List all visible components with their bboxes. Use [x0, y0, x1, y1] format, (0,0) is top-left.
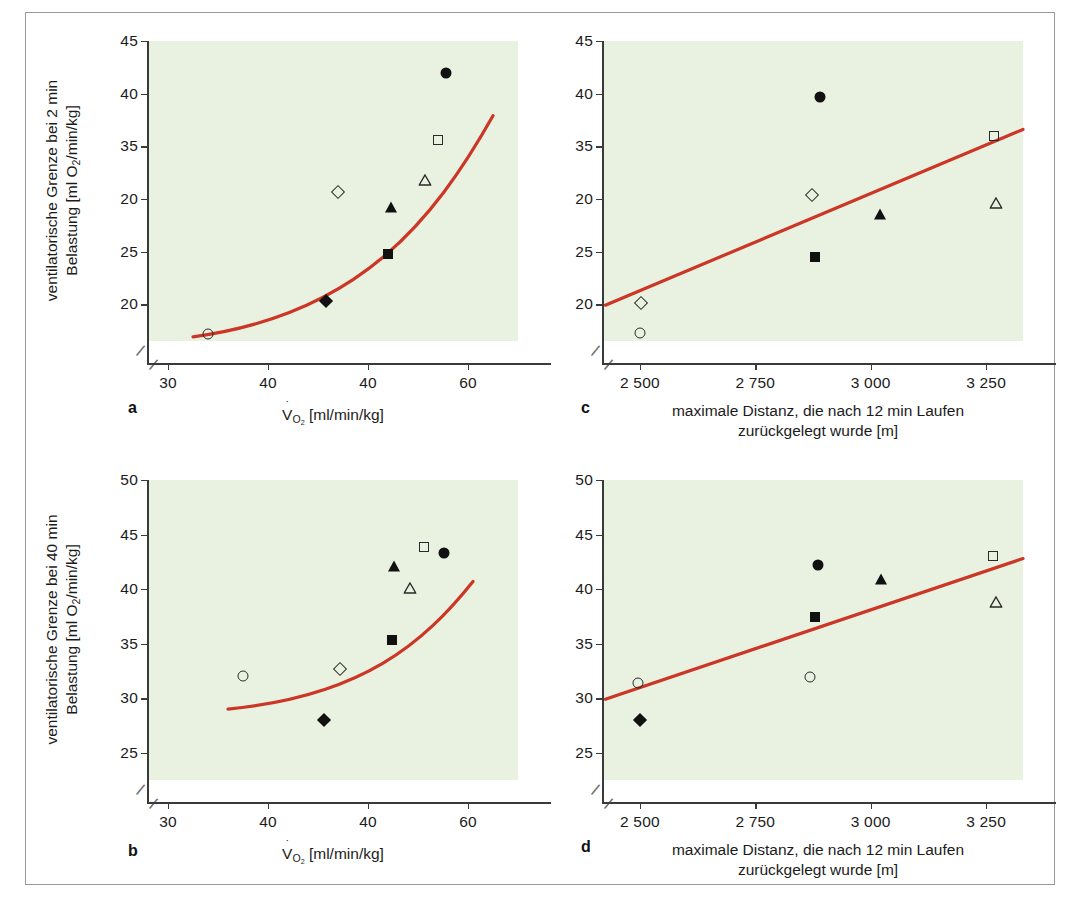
d-x-tick — [755, 803, 756, 809]
d-x-ticklabel: 2 750 — [735, 813, 775, 831]
c-y-ticklabel: 45 — [553, 32, 593, 50]
c-x-ticklabel: 2 500 — [620, 374, 660, 392]
a-x-tick — [368, 364, 369, 370]
d-y-ticklabel: 45 — [553, 526, 593, 544]
b-x-ticklabel: 40 — [359, 813, 377, 831]
c-y-ticklabel: 20 — [553, 190, 593, 208]
panel-a-y-axis-label: ventilatorische Grenze bei 2 min Belastu… — [42, 38, 84, 343]
a-y-tick — [141, 199, 147, 200]
b-y-ticklabel: 35 — [98, 635, 138, 653]
a-marker-square-open — [433, 135, 443, 145]
d-marker-circle-open — [804, 672, 815, 683]
c-y-tick — [596, 94, 602, 95]
b-x-ticklabel: 40 — [259, 813, 277, 831]
panel-d-x-axis-label: maximale Distanz, die nach 12 min Laufen… — [603, 840, 1033, 880]
panel-c: maximale Distanz, die nach 12 min Laufen… — [541, 13, 1054, 443]
d-y-axis-break-icon: ∕∕ — [593, 781, 597, 798]
d-trend-line — [603, 480, 1023, 780]
b-marker-triangle-filled — [388, 561, 400, 572]
c-y-tick — [596, 199, 602, 200]
d-y-tick — [596, 589, 602, 590]
c-x-tick — [986, 364, 987, 370]
a-x-ticklabel: 60 — [459, 374, 477, 392]
c-y-tick — [596, 252, 602, 253]
b-x-tick — [168, 803, 169, 809]
b-y-tick — [141, 644, 147, 645]
c-y-tick — [596, 41, 602, 42]
panel-a-plot-area — [148, 41, 518, 341]
a-y-tick — [141, 304, 147, 305]
b-y-tick — [141, 753, 147, 754]
d-x-axis — [602, 802, 1056, 804]
d-marker-square-open — [988, 551, 998, 561]
a-marker-triangle-open — [419, 174, 432, 186]
panel-c-plot-area — [603, 41, 1023, 341]
c-x-ticklabel: 2 750 — [735, 374, 775, 392]
a-x-ticklabel: 40 — [359, 374, 377, 392]
a-y-ticklabel: 25 — [98, 243, 138, 261]
b-y-ticklabel: 40 — [98, 580, 138, 598]
a-y-tick — [141, 252, 147, 253]
a-y-ticklabel: 20 — [98, 190, 138, 208]
panel-a: ventilatorische Grenze bei 2 min Belastu… — [26, 13, 536, 443]
d-y-ticklabel: 25 — [553, 744, 593, 762]
a-x-tick — [468, 364, 469, 370]
d-x-ticklabel: 3 250 — [966, 813, 1006, 831]
c-y-tick — [596, 146, 602, 147]
c-y-axis — [602, 41, 604, 363]
c-y-axis-break-icon: ∕∕ — [593, 342, 597, 359]
d-x-ticklabel: 3 000 — [851, 813, 891, 831]
a-y-ticklabel: 35 — [98, 137, 138, 155]
d-y-tick — [596, 698, 602, 699]
panel-a-letter: a — [128, 399, 137, 417]
b-x-tick — [268, 803, 269, 809]
d-x-tick — [871, 803, 872, 809]
b-trend-line — [148, 480, 518, 780]
c-x-tick — [640, 364, 641, 370]
b-y-axis-break-icon: ∕∕ — [138, 781, 142, 798]
c-x-tick — [755, 364, 756, 370]
d-marker-triangle-filled — [875, 574, 887, 585]
d-marker-diamond-filled — [633, 713, 647, 727]
d-y-ticklabel: 35 — [553, 635, 593, 653]
b-marker-diamond-open — [333, 662, 347, 676]
b-y-ticklabel: 30 — [98, 689, 138, 707]
a-marker-circle-filled — [441, 67, 452, 78]
b-marker-circle-filled — [439, 548, 450, 559]
d-y-axis — [602, 480, 604, 802]
a-marker-square-filled — [383, 249, 393, 259]
c-marker-circle-filled — [814, 91, 825, 102]
a-x-ticklabel: 40 — [259, 374, 277, 392]
d-marker-triangle-open — [990, 596, 1003, 608]
c-x-ticklabel: 3 250 — [966, 374, 1006, 392]
b-y-ticklabel: 45 — [98, 526, 138, 544]
b-y-tick — [141, 535, 147, 536]
d-x-ticklabel: 2 500 — [620, 813, 660, 831]
c-y-ticklabel: 25 — [553, 243, 593, 261]
a-y-ticklabel: 40 — [98, 85, 138, 103]
b-marker-circle-open — [238, 671, 249, 682]
b-y-tick — [141, 589, 147, 590]
b-y-ticklabel: 25 — [98, 744, 138, 762]
b-y-axis — [147, 480, 149, 802]
d-y-tick — [596, 753, 602, 754]
d-x-tick — [986, 803, 987, 809]
c-marker-square-open — [989, 131, 999, 141]
d-y-ticklabel: 50 — [553, 471, 593, 489]
d-y-ticklabel: 30 — [553, 689, 593, 707]
a-y-axis — [147, 41, 149, 363]
c-y-ticklabel: 40 — [553, 85, 593, 103]
c-x-tick — [871, 364, 872, 370]
panel-b: ventilatorische Grenze bei 40 min Belast… — [26, 450, 536, 886]
panel-b-plot-area — [148, 480, 518, 780]
b-x-tick — [368, 803, 369, 809]
panel-a-x-axis-label: ̇VO2 [ml/min/kg] — [148, 405, 518, 428]
b-x-ticklabel: 30 — [159, 813, 177, 831]
d-y-tick — [596, 535, 602, 536]
c-marker-diamond-open — [805, 188, 819, 202]
c-marker-square-filled — [810, 252, 820, 262]
a-x-axis — [147, 363, 551, 365]
b-x-tick — [468, 803, 469, 809]
c-marker-triangle-open — [990, 197, 1003, 209]
c-y-ticklabel: 35 — [553, 137, 593, 155]
